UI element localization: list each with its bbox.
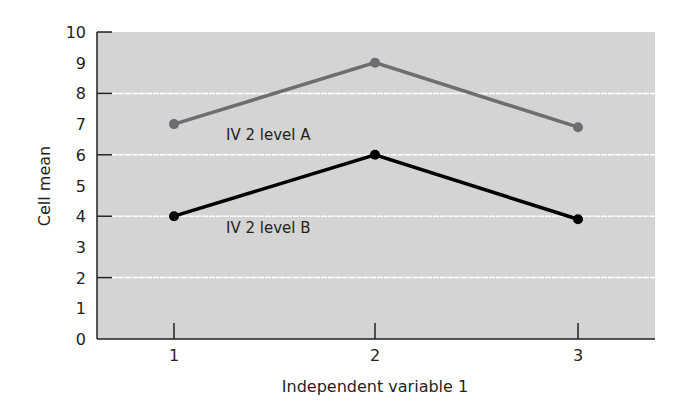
data-point: [169, 119, 179, 129]
x-tick-label: 3: [573, 346, 583, 365]
y-tick-label: 1: [76, 299, 86, 318]
y-tick-label: 2: [76, 269, 86, 288]
y-tick-label: 0: [76, 330, 86, 349]
plot-background: [97, 32, 655, 339]
y-tick-label: 3: [76, 238, 86, 257]
y-tick-label: 6: [76, 146, 86, 165]
y-tick-labels: 012345678910: [66, 23, 86, 349]
x-tick-labels: 123: [169, 346, 583, 365]
data-point: [169, 211, 179, 221]
y-tick-label: 5: [76, 177, 86, 196]
x-tick-label: 2: [370, 346, 380, 365]
y-tick-label: 8: [76, 84, 86, 103]
data-point: [370, 150, 380, 160]
y-tick-label: 7: [76, 115, 86, 134]
data-point: [573, 214, 583, 224]
y-tick-label: 4: [76, 207, 86, 226]
y-tick-label: 10: [66, 23, 86, 42]
y-axis-title: Cell mean: [35, 146, 54, 226]
series-label-a: IV 2 level A: [226, 126, 311, 144]
x-tick-label: 1: [169, 346, 179, 365]
data-point: [573, 122, 583, 132]
line-chart: 012345678910 123 Cell mean Independent v…: [0, 0, 687, 419]
y-tick-label: 9: [76, 54, 86, 73]
series-label-b: IV 2 level B: [226, 219, 311, 237]
x-axis-title: Independent variable 1: [282, 377, 468, 396]
data-point: [370, 58, 380, 68]
